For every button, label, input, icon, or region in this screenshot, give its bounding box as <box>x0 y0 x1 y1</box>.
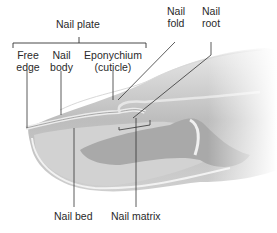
label-nail-matrix: Nail matrix <box>111 210 161 222</box>
label-nail-body: Nail body <box>48 49 75 73</box>
label-eponychium-line2: (cuticle) <box>84 61 142 73</box>
label-nail-fold: Nail fold <box>163 5 189 29</box>
label-nail-root-line1: Nail <box>198 5 224 17</box>
label-free-edge-line1: Free <box>13 49 43 61</box>
label-nail-body-line2: body <box>48 61 75 73</box>
label-nail-plate: Nail plate <box>56 18 100 30</box>
label-nail-bed: Nail bed <box>54 210 93 222</box>
label-nail-root-line2: root <box>198 17 224 29</box>
label-eponychium-line1: Eponychium <box>84 49 142 61</box>
fingertip-illustration <box>0 0 277 233</box>
label-nail-fold-line1: Nail <box>163 5 189 17</box>
label-nail-root: Nail root <box>198 5 224 29</box>
label-nail-body-line1: Nail <box>48 49 75 61</box>
label-free-edge: Free edge <box>13 49 43 73</box>
label-eponychium: Eponychium (cuticle) <box>84 49 142 73</box>
label-nail-fold-line2: fold <box>163 17 189 29</box>
label-free-edge-line2: edge <box>13 61 43 73</box>
